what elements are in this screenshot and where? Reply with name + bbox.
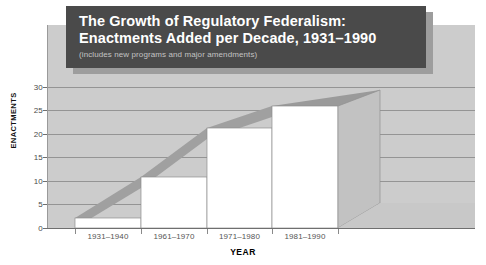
y-tick-mark-25	[43, 110, 47, 111]
y-tick-label-0: 0	[3, 224, 43, 233]
chart-title-line-1: The Growth of Regulatory Federalism:	[79, 13, 426, 30]
y-tick-mark-10	[43, 181, 47, 182]
x-axis-line	[47, 228, 475, 229]
x-tick-label-1971-1980: 1971–1980	[207, 232, 272, 241]
x-tick-label-1961-1970: 1961–1970	[141, 232, 207, 241]
y-tick-mark-5	[43, 204, 47, 205]
x-axis-title: YEAR	[0, 247, 486, 257]
bar-1931-1940	[75, 218, 141, 228]
y-tick-mark-30	[43, 87, 47, 88]
y-tick-mark-0	[43, 228, 47, 229]
x-tick-label-1931-1940: 1931–1940	[75, 232, 141, 241]
y-axis-line	[47, 25, 48, 229]
y-tick-label-10: 10	[3, 177, 43, 186]
y-tick-label-5: 5	[3, 200, 43, 209]
y-tick-mark-20	[43, 134, 47, 135]
title-box: The Growth of Regulatory Federalism: Ena…	[66, 6, 426, 68]
chart-title-line-2: Enactments Added per Decade, 1931–1990	[79, 30, 426, 47]
x-tick-mark-4	[338, 229, 339, 234]
bar-1981-1990	[272, 106, 338, 228]
bar-1961-1970	[141, 177, 207, 228]
x-tick-label-1981-1990: 1981–1990	[272, 232, 338, 241]
chart-subtitle: (includes new programs and major amendme…	[79, 50, 426, 59]
y-axis-title: ENACTMENTS	[9, 76, 18, 166]
y-tick-mark-15	[43, 157, 47, 158]
chart-figure: 30 25 20 15 10 5 0 ENACTMENTS 1931–1940 …	[0, 0, 486, 265]
y-axis-ticks: 30 25 20 15 10 5 0	[0, 0, 43, 265]
bar-1971-1980	[207, 128, 272, 228]
